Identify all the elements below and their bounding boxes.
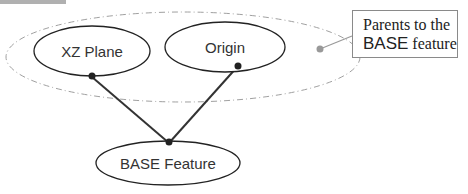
callout-line-2: BASE feature	[363, 34, 457, 53]
callout-box: Parents to the BASE feature	[352, 10, 458, 58]
callout-bold-word: BASE	[363, 34, 408, 53]
base-feature-connection-dot	[166, 139, 173, 146]
callout-connector	[320, 36, 352, 49]
edge-xz-plane-to-base	[92, 77, 169, 143]
node-origin-label: Origin	[205, 39, 245, 56]
node-xz-plane-label: XZ Plane	[61, 43, 123, 60]
edge-origin-to-base	[169, 66, 238, 143]
origin-connection-dot	[235, 63, 242, 70]
node-base-feature-label: BASE Feature	[120, 155, 216, 172]
xz-plane-connection-dot	[89, 73, 96, 80]
callout-line-1: Parents to the	[363, 15, 457, 34]
callout-anchor-dot	[317, 46, 324, 53]
callout-line-2-rest: feature	[408, 35, 456, 52]
